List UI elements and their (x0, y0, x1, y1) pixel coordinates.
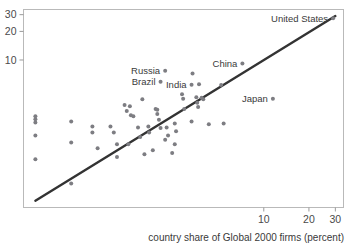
y-tick-label: 30 (5, 8, 17, 20)
data-point-labeled (240, 61, 244, 65)
data-point-labeled (159, 80, 163, 84)
y-tick-label: 20 (5, 25, 17, 37)
data-point (180, 92, 184, 96)
data-point (33, 120, 37, 124)
data-point (174, 129, 178, 133)
data-point (69, 120, 73, 124)
data-point (173, 121, 177, 125)
data-point (222, 121, 226, 125)
data-point (173, 142, 177, 146)
x-axis-title: country share of Global 2000 firms (perc… (148, 232, 344, 243)
data-point (155, 108, 159, 112)
data-point (129, 113, 133, 117)
data-point (159, 126, 163, 130)
data-point (136, 125, 140, 129)
data-point (196, 105, 200, 109)
data-point (163, 138, 167, 142)
data-point (115, 142, 119, 146)
data-point (33, 134, 37, 138)
data-point (125, 109, 129, 113)
chart-canvas: 102030 102030 United StatesChinaRussiaBr… (0, 0, 351, 248)
data-point (157, 118, 161, 122)
point-label: Brazil (132, 76, 156, 87)
data-point-labeled (163, 69, 167, 73)
point-label: Russia (131, 65, 161, 76)
data-point (123, 103, 127, 107)
data-point (191, 72, 195, 76)
point-label: Japan (242, 93, 268, 104)
data-point (219, 83, 223, 87)
y-tick-label: 10 (5, 54, 17, 66)
data-point (207, 122, 211, 126)
data-point (140, 97, 144, 101)
data-point (197, 82, 201, 86)
point-labels: United StatesChinaRussiaBrazilIndiaJapan (131, 13, 335, 105)
data-point (165, 125, 169, 129)
point-label: United States (271, 13, 328, 24)
y-axis-ticks: 102030 (5, 8, 24, 65)
data-point (201, 97, 205, 101)
data-point (90, 124, 94, 128)
data-point (182, 107, 186, 111)
data-point (190, 120, 194, 124)
scatter-chart: 102030 102030 United StatesChinaRussiaBr… (0, 0, 351, 248)
x-tick-label: 30 (330, 213, 342, 225)
data-points (33, 72, 225, 186)
data-point (69, 182, 73, 186)
data-point (90, 131, 94, 135)
data-point (181, 97, 185, 101)
x-tick-label: 20 (303, 213, 315, 225)
data-point (170, 151, 174, 155)
data-point (33, 157, 37, 161)
data-point (115, 155, 119, 159)
data-point (138, 135, 142, 139)
data-point-labeled (331, 16, 335, 20)
point-label: India (166, 79, 187, 90)
data-point (194, 95, 198, 99)
data-point (155, 112, 159, 116)
data-point (195, 101, 199, 105)
data-point (126, 142, 130, 146)
data-point (108, 124, 112, 128)
data-point (146, 124, 150, 128)
data-point (112, 131, 116, 135)
point-label: China (213, 58, 239, 69)
data-point (147, 131, 151, 135)
data-point (151, 148, 155, 152)
data-point (142, 152, 146, 156)
data-point-labeled (190, 83, 194, 87)
data-point (69, 141, 73, 145)
x-tick-label: 10 (258, 213, 270, 225)
data-point (96, 146, 100, 150)
x-axis-ticks: 102030 (258, 208, 341, 225)
data-point-labeled (271, 97, 275, 101)
data-point (166, 134, 170, 138)
data-point (128, 104, 132, 108)
